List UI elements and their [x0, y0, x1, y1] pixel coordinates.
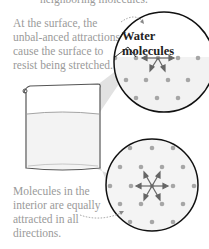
- beaker-icon: [23, 84, 100, 170]
- dotted-arrow-interior: [80, 213, 121, 218]
- surface-magnifier: [113, 12, 209, 117]
- interior-magnifier: [106, 139, 198, 231]
- water-molecules-label: Water molecules: [122, 29, 209, 59]
